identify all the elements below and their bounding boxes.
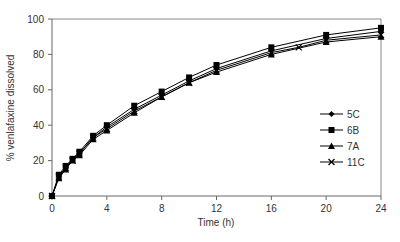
square-marker-icon xyxy=(131,103,137,109)
legend-item-7a: 7A xyxy=(320,141,360,152)
x-tick-label: 4 xyxy=(104,203,110,214)
x-tick-label: 12 xyxy=(211,203,223,214)
diamond-marker-icon xyxy=(329,111,335,117)
x-tick-label: 24 xyxy=(375,203,387,214)
y-tick-label: 60 xyxy=(33,84,45,95)
plot-area xyxy=(49,25,385,199)
chart-canvas: 02040608010004812162024 5C6B7A11C Time (… xyxy=(0,0,400,242)
legend-label: 6B xyxy=(347,125,360,136)
square-marker-icon xyxy=(329,127,335,133)
y-axis-label: % venlafaxine dissolved xyxy=(5,55,16,162)
y-tick-label: 20 xyxy=(33,155,45,166)
series-11c xyxy=(49,32,384,199)
legend-label: 7A xyxy=(347,141,360,152)
square-marker-icon xyxy=(323,32,329,38)
square-marker-icon xyxy=(378,25,384,31)
square-marker-icon xyxy=(214,62,220,68)
legend-item-5c: 5C xyxy=(320,109,360,120)
legend-item-6b: 6B xyxy=(320,125,360,136)
legend-label: 11C xyxy=(347,157,365,168)
square-marker-icon xyxy=(268,44,274,50)
x-tick-label: 8 xyxy=(159,203,165,214)
y-tick-label: 0 xyxy=(38,191,44,202)
legend-label: 5C xyxy=(347,109,360,120)
x-tick-label: 0 xyxy=(49,203,55,214)
series-6b xyxy=(49,25,384,199)
y-tick-label: 80 xyxy=(33,49,45,60)
x-tick-label: 16 xyxy=(266,203,278,214)
y-tick-label: 100 xyxy=(27,14,44,25)
x-tick-label: 20 xyxy=(321,203,333,214)
legend-item-11c: 11C xyxy=(320,157,365,168)
x-axis-label: Time (h) xyxy=(198,217,235,228)
legend: 5C6B7A11C xyxy=(320,109,365,168)
series-7a xyxy=(49,33,385,199)
y-tick-label: 40 xyxy=(33,120,45,131)
dissolution-chart: 02040608010004812162024 5C6B7A11C Time (… xyxy=(0,0,400,242)
